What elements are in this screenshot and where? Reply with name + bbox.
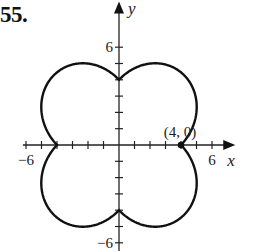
y-axis-arrow-icon <box>114 2 124 14</box>
annotated-point <box>178 142 185 149</box>
y-tick-label: 6 <box>106 39 114 55</box>
x-tick-label: −6 <box>18 152 34 168</box>
point-label: (4, 0) <box>164 124 197 141</box>
polar-graph: x y −666−6 (4, 0) <box>0 0 253 252</box>
y-axis-label: y <box>126 0 136 18</box>
x-tick-label: 6 <box>208 152 216 168</box>
x-axis-arrow-icon <box>223 140 235 150</box>
axes: x y −666−6 <box>18 0 235 251</box>
x-axis-label: x <box>226 151 235 170</box>
y-tick-label: −6 <box>97 235 113 251</box>
